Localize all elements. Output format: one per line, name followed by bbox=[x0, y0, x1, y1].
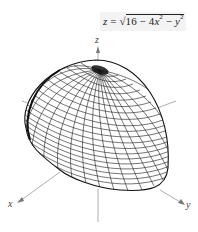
exponent-1: 2 bbox=[159, 13, 163, 21]
equation-equals: = bbox=[110, 15, 116, 27]
exponent-2: 2 bbox=[180, 13, 184, 21]
y-axis-label: y bbox=[186, 199, 190, 210]
x-axis-label: x bbox=[8, 198, 12, 209]
equation-lhs: z bbox=[103, 15, 107, 27]
z-axis-arrow-icon bbox=[96, 46, 100, 53]
ellipsoid-surface-figure: z = √16 − 4x2 − y2 z x y bbox=[0, 0, 198, 232]
y-axis-arrow-icon bbox=[178, 199, 185, 205]
equation-label: z = √16 − 4x2 − y2 bbox=[103, 14, 184, 27]
plot-canvas bbox=[0, 0, 198, 232]
x-axis-arrow-icon bbox=[17, 197, 24, 203]
z-axis-label: z bbox=[95, 34, 99, 45]
